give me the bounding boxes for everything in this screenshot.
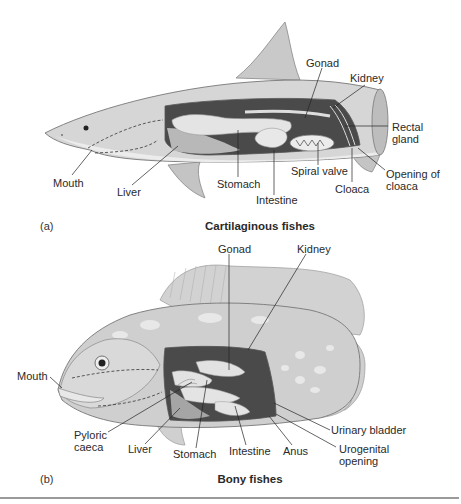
bottom-divider xyxy=(0,497,459,499)
label-urinary-bladder: Urinary bladder xyxy=(331,424,406,436)
label-mouth: Mouth xyxy=(17,370,48,382)
label-spiral-valve: Spiral valve xyxy=(291,165,348,177)
panel-tag-b: (b) xyxy=(40,473,53,485)
label-rectal-gland: Rectal gland xyxy=(392,121,423,145)
caption-bony-fishes: Bony fishes xyxy=(140,473,360,485)
label-urogenital-opening: Urogenital opening xyxy=(339,443,389,467)
panel-tag-a: (a) xyxy=(40,220,53,232)
label-stomach: Stomach xyxy=(173,448,216,460)
bony-fish-illustration xyxy=(0,240,461,504)
label-liver: Liver xyxy=(117,186,141,198)
shark-illustration xyxy=(0,0,461,240)
label-kidney: Kidney xyxy=(350,72,384,84)
label-mouth: Mouth xyxy=(53,177,84,189)
panel-cartilaginous-fish: Gonad Kidney Rectal gland Opening of clo… xyxy=(0,0,461,240)
label-intestine: Intestine xyxy=(229,445,271,457)
label-liver: Liver xyxy=(128,443,152,455)
label-gonad: Gonad xyxy=(218,243,251,255)
label-gonad: Gonad xyxy=(306,57,339,69)
label-opening-of-cloaca: Opening of cloaca xyxy=(386,168,440,192)
label-intestine: Intestine xyxy=(256,194,298,206)
caption-cartilaginous-fishes: Cartilaginous fishes xyxy=(150,220,370,232)
label-kidney: Kidney xyxy=(297,243,331,255)
label-cloaca: Cloaca xyxy=(335,183,369,195)
label-stomach: Stomach xyxy=(217,178,260,190)
label-anus: Anus xyxy=(283,445,308,457)
label-pyloric-caeca: Pyloric caeca xyxy=(74,429,107,453)
panel-bony-fish: Gonad Kidney Mouth Pyloric caeca Liver S… xyxy=(0,240,461,504)
